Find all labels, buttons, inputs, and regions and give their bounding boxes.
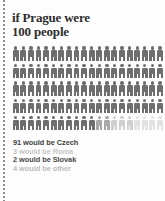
- infographic-content: if Prague were 100 people 91 would be Cz…: [12, 0, 165, 201]
- person-icon: [73, 115, 81, 132]
- person-icon: [118, 115, 126, 132]
- person-icon: [20, 97, 28, 114]
- person-icon: [88, 97, 96, 114]
- person-icon: [118, 97, 126, 114]
- person-icon: [50, 115, 58, 132]
- person-icon: [111, 45, 119, 62]
- left-dotted-rule: [3, 0, 5, 201]
- person-icon: [149, 45, 157, 62]
- person-icon: [73, 62, 81, 79]
- person-icon: [156, 97, 164, 114]
- person-icon: [80, 80, 88, 97]
- person-icon: [80, 115, 88, 132]
- person-icon: [27, 45, 35, 62]
- person-icon: [156, 45, 164, 62]
- person-icon: [126, 45, 134, 62]
- person-icon: [141, 80, 149, 97]
- legend-line: 4 would be other: [13, 165, 165, 174]
- person-icon: [96, 115, 104, 132]
- person-icon: [126, 97, 134, 114]
- person-icon: [58, 62, 66, 79]
- person-icon: [65, 80, 73, 97]
- person-icon: [65, 62, 73, 79]
- person-icon: [88, 115, 96, 132]
- person-icon: [134, 115, 142, 132]
- person-icon: [12, 62, 20, 79]
- person-icon: [12, 97, 20, 114]
- person-icon: [103, 115, 111, 132]
- person-icon: [96, 97, 104, 114]
- person-icon: [96, 80, 104, 97]
- person-icon: [65, 115, 73, 132]
- person-icon: [35, 45, 43, 62]
- person-icon: [134, 62, 142, 79]
- person-icon: [149, 97, 157, 114]
- person-icon: [20, 62, 28, 79]
- person-icon: [111, 80, 119, 97]
- person-icon: [50, 80, 58, 97]
- person-icon: [149, 115, 157, 132]
- person-icon: [35, 97, 43, 114]
- person-icon: [141, 45, 149, 62]
- person-icon: [126, 115, 134, 132]
- person-icon: [141, 97, 149, 114]
- person-icon: [42, 80, 50, 97]
- person-icon: [12, 45, 20, 62]
- person-icon: [156, 62, 164, 79]
- person-icon: [65, 97, 73, 114]
- person-icon: [141, 62, 149, 79]
- person-icon: [141, 115, 149, 132]
- person-icon: [73, 80, 81, 97]
- person-icon: [58, 45, 66, 62]
- person-icon: [134, 80, 142, 97]
- person-icon: [156, 115, 164, 132]
- person-icon: [35, 115, 43, 132]
- person-icon: [50, 62, 58, 79]
- person-icon: [88, 62, 96, 79]
- person-icon: [88, 80, 96, 97]
- person-icon: [103, 97, 111, 114]
- person-icon: [73, 97, 81, 114]
- person-icon: [80, 62, 88, 79]
- person-icon: [134, 45, 142, 62]
- person-icon: [149, 62, 157, 79]
- person-icon: [42, 62, 50, 79]
- person-icon: [156, 80, 164, 97]
- person-icon: [58, 115, 66, 132]
- pictogram-grid: [12, 45, 164, 132]
- person-icon: [20, 80, 28, 97]
- person-icon: [27, 97, 35, 114]
- person-icon: [149, 80, 157, 97]
- person-icon: [27, 80, 35, 97]
- person-icon: [58, 80, 66, 97]
- person-icon: [96, 45, 104, 62]
- person-icon: [65, 45, 73, 62]
- person-icon: [126, 62, 134, 79]
- person-icon: [111, 62, 119, 79]
- person-icon: [111, 97, 119, 114]
- person-icon: [96, 62, 104, 79]
- person-icon: [88, 45, 96, 62]
- person-icon: [42, 45, 50, 62]
- person-icon: [42, 97, 50, 114]
- person-icon: [111, 115, 119, 132]
- person-icon: [50, 97, 58, 114]
- person-icon: [80, 45, 88, 62]
- person-icon: [58, 97, 66, 114]
- person-icon: [103, 62, 111, 79]
- person-icon: [42, 115, 50, 132]
- legend: 91 would be Czech3 would be Roma2 would …: [12, 139, 165, 173]
- person-icon: [80, 97, 88, 114]
- person-icon: [103, 80, 111, 97]
- person-icon: [35, 62, 43, 79]
- person-icon: [20, 45, 28, 62]
- page-title: if Prague were 100 people: [12, 0, 165, 39]
- infographic-page: if Prague were 100 people 91 would be Cz…: [0, 0, 165, 201]
- person-icon: [118, 80, 126, 97]
- person-icon: [20, 115, 28, 132]
- person-icon: [103, 45, 111, 62]
- person-icon: [12, 80, 20, 97]
- person-icon: [35, 80, 43, 97]
- person-icon: [73, 45, 81, 62]
- person-icon: [27, 115, 35, 132]
